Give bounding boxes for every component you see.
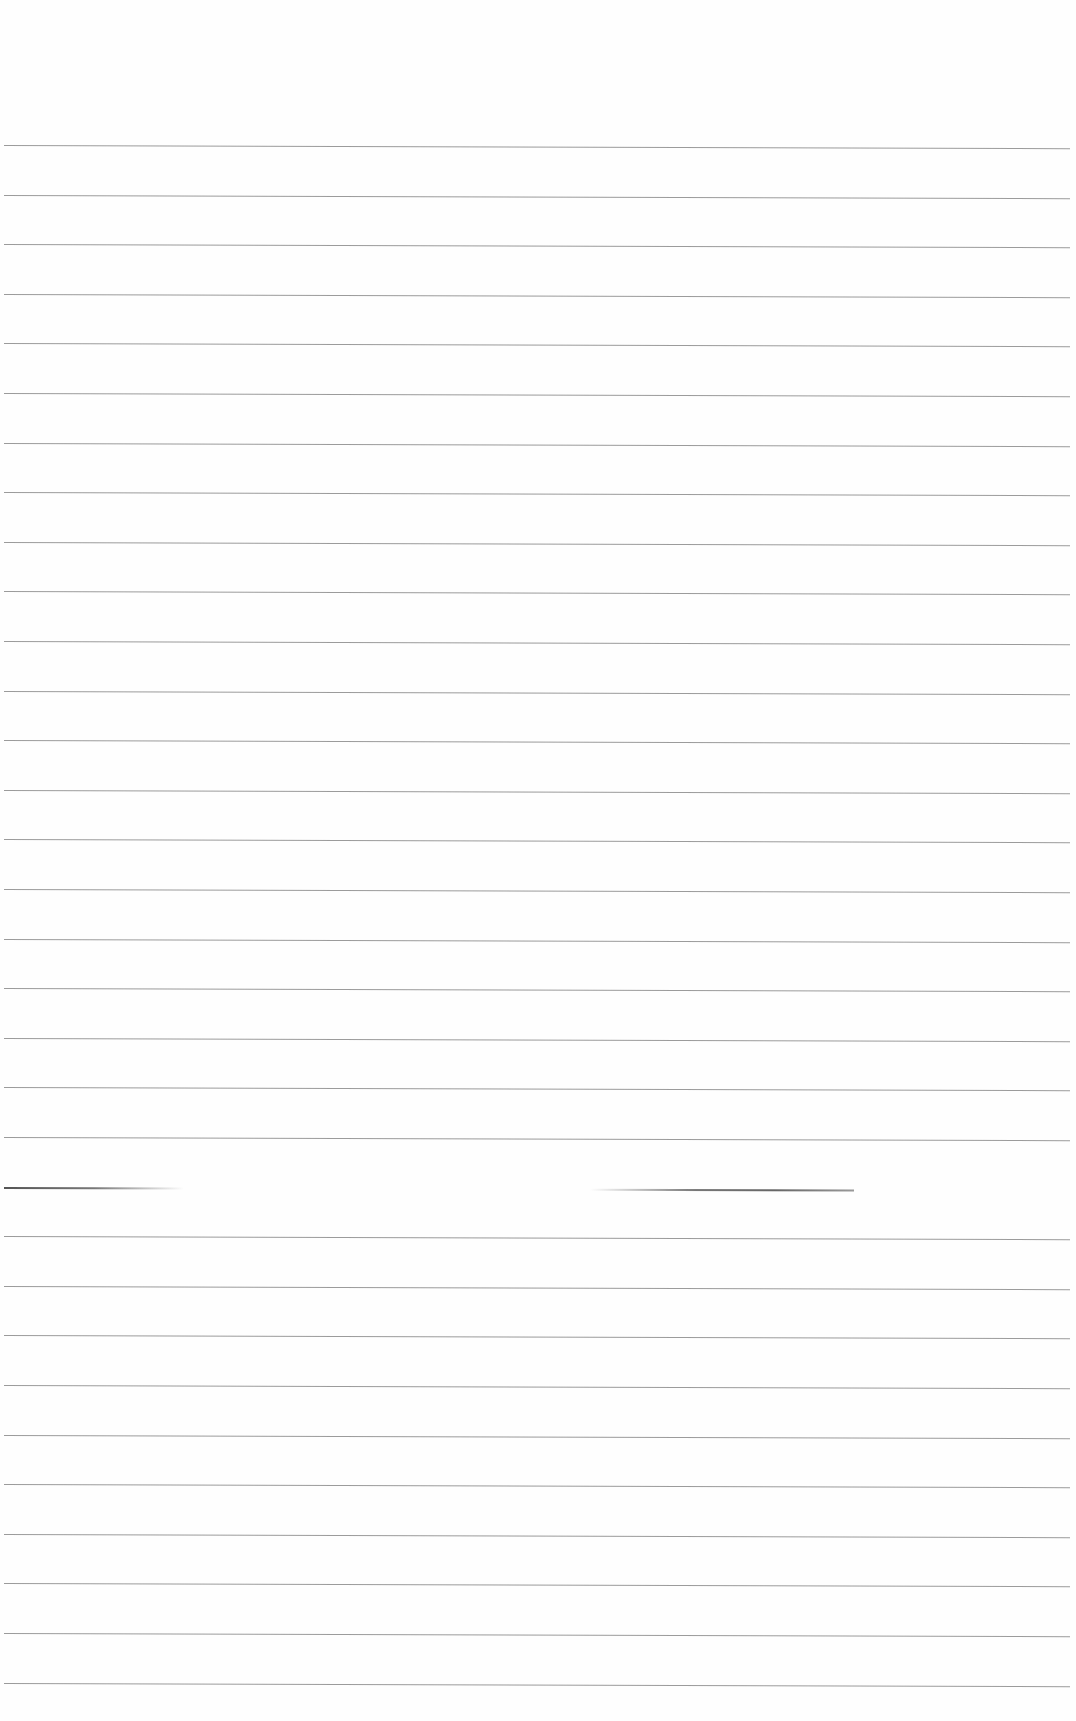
ruled-line — [4, 244, 1070, 248]
ruled-line — [4, 1236, 1070, 1240]
ruled-line — [4, 939, 1070, 943]
ruled-line — [4, 988, 1070, 992]
ruled-line — [4, 343, 1070, 347]
ruled-line — [4, 889, 1070, 893]
lined-paper-sheet — [0, 0, 1076, 1721]
ruled-line — [4, 790, 1070, 794]
ruled-line — [4, 1435, 1070, 1439]
ruled-line — [4, 1038, 1070, 1042]
ruled-line-segment — [4, 1187, 184, 1190]
ruled-line — [4, 1385, 1070, 1389]
ruled-line — [4, 1286, 1070, 1290]
ruled-line — [4, 1187, 1070, 1191]
ruled-line — [4, 740, 1070, 744]
ruled-line — [4, 294, 1070, 298]
ruled-line — [4, 443, 1070, 447]
ruled-line — [4, 1335, 1070, 1339]
ruled-line — [4, 1683, 1070, 1687]
ruled-line-segment — [590, 1189, 854, 1192]
ruled-line — [4, 591, 1070, 595]
ruled-line — [4, 839, 1070, 843]
ruled-line — [4, 1633, 1070, 1637]
ruled-line — [4, 1484, 1070, 1488]
ruled-line — [4, 145, 1070, 149]
ruled-line — [4, 1087, 1070, 1091]
ruled-line — [4, 641, 1070, 645]
ruled-line — [4, 393, 1070, 397]
ruled-line — [4, 542, 1070, 546]
ruled-line — [4, 1583, 1070, 1587]
ruled-line — [4, 691, 1070, 695]
ruled-line — [4, 195, 1070, 199]
ruled-line — [4, 492, 1070, 496]
ruled-line — [4, 1534, 1070, 1538]
ruled-line — [4, 1137, 1070, 1141]
